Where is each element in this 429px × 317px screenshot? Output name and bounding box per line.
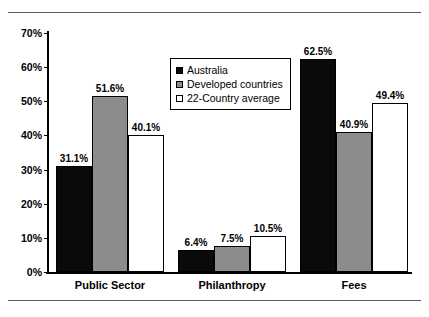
legend: Australia Developed countries 22-Country… (170, 58, 291, 110)
bar-group: 31.1%51.6%40.1% (56, 33, 164, 272)
legend-label-22-country-average: 22-Country average (187, 93, 280, 104)
bar[interactable]: 40.1% (128, 135, 164, 272)
bar[interactable]: 7.5% (214, 246, 250, 272)
bar-group: 62.5%40.9%49.4% (300, 33, 408, 272)
y-tick-label: 30% (21, 164, 42, 176)
legend-swatch-icon-australia (176, 67, 183, 74)
bar[interactable]: 62.5% (300, 59, 336, 272)
bar[interactable]: 40.9% (336, 132, 372, 272)
legend-swatch-icon-22-country-average (176, 95, 183, 102)
bar[interactable]: 31.1% (56, 166, 92, 272)
category-label: Public Sector (75, 279, 145, 291)
bar-value-label: 51.6% (96, 83, 124, 94)
y-tick-label: 10% (21, 232, 42, 244)
bar[interactable]: 6.4% (178, 250, 214, 272)
top-rule (8, 12, 421, 13)
y-tick-label: 40% (21, 129, 42, 141)
y-tick-label: 70% (21, 27, 42, 39)
bar[interactable]: 49.4% (372, 103, 408, 272)
legend-item-australia: Australia (176, 63, 285, 77)
legend-label-australia: Australia (187, 65, 228, 76)
bar-value-label: 10.5% (254, 223, 282, 234)
bottom-rule (8, 300, 421, 301)
legend-item-developed-countries: Developed countries (176, 77, 285, 91)
chart-figure: 0%10%20%30%40%50%60%70% 31.1%51.6%40.1%6… (0, 0, 429, 317)
bar-value-label: 49.4% (376, 90, 404, 101)
category-label: Fees (341, 279, 366, 291)
category-label: Philanthropy (198, 279, 265, 291)
legend-swatch-icon-developed-countries (176, 81, 183, 88)
y-tick-label: 50% (21, 95, 42, 107)
legend-item-22-country-average: 22-Country average (176, 91, 285, 105)
y-tick-label: 0% (27, 266, 42, 278)
y-tick-label: 20% (21, 198, 42, 210)
x-axis (46, 272, 412, 274)
bar-value-label: 62.5% (304, 46, 332, 57)
legend-label-developed-countries: Developed countries (187, 79, 283, 90)
y-axis-tick-labels: 0%10%20%30%40%50%60%70% (0, 0, 42, 317)
bar-value-label: 40.9% (340, 119, 368, 130)
bar-value-label: 31.1% (60, 153, 88, 164)
bar[interactable]: 51.6% (92, 96, 128, 272)
bar-value-label: 6.4% (185, 237, 208, 248)
y-tick-label: 60% (21, 61, 42, 73)
bar[interactable]: 10.5% (250, 236, 286, 272)
bar-value-label: 40.1% (132, 122, 160, 133)
bar-value-label: 7.5% (221, 233, 244, 244)
